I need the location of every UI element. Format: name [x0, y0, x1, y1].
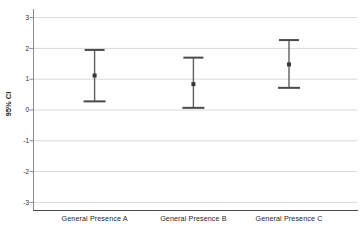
mean-marker	[191, 82, 195, 86]
mean-marker	[93, 74, 97, 78]
y-tick-label: 1	[25, 75, 29, 82]
y-tick-label: 2	[25, 45, 29, 52]
y-axis-title: 95% CI	[4, 92, 13, 117]
error-bars	[84, 40, 300, 108]
y-tick-label: -1	[23, 137, 29, 144]
chart-canvas: 3 2 1 0 -1 -2 -3 General Presence A Gene…	[0, 0, 362, 229]
ci-error-bar-chart: 3 2 1 0 -1 -2 -3 General Presence A Gene…	[0, 0, 362, 229]
x-category-label: General Presence B	[160, 214, 227, 223]
gridlines	[33, 18, 357, 203]
y-tick-label: -3	[23, 199, 29, 206]
x-category-label: General Presence A	[62, 214, 128, 223]
mean-marker	[287, 62, 291, 66]
y-axis-tick-marks	[30, 18, 34, 203]
y-tick-label: 3	[25, 14, 29, 21]
x-category-label: General Presence C	[256, 214, 323, 223]
y-tick-label: 0	[25, 106, 29, 113]
y-tick-label: -2	[23, 168, 29, 175]
